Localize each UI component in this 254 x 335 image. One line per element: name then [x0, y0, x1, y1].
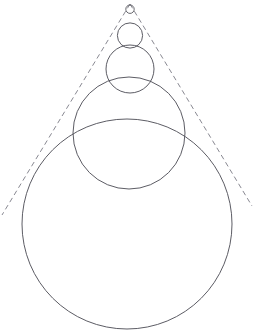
tangent-circles-diagram — [0, 0, 254, 335]
circle-4 — [73, 77, 185, 189]
circle-2 — [117, 23, 142, 48]
circle-5 — [22, 119, 232, 329]
circle-1 — [126, 5, 134, 13]
figure-container: Chain of mutually tangent circles inscri… — [0, 0, 254, 335]
right-tangent-line — [130, 4, 252, 206]
circle-3 — [106, 45, 154, 93]
left-tangent-line — [2, 4, 130, 215]
